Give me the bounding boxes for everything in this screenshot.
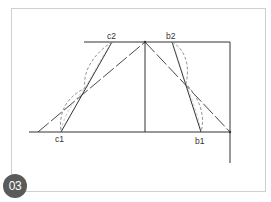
- label-c1: c1: [55, 134, 64, 144]
- figure-number-badge: 03: [3, 174, 27, 198]
- apex-point: [144, 41, 146, 43]
- right-bottom-point: [229, 131, 231, 133]
- label-b2: b2: [166, 31, 176, 41]
- label-c2: c2: [107, 31, 116, 41]
- b2-b1-line: [172, 42, 201, 132]
- c1-c2-line: [61, 42, 112, 132]
- pattern-diagram: c2 c1 b2 b1: [0, 0, 271, 202]
- label-b1: b1: [195, 136, 205, 146]
- left-dashed-diagonal: [38, 42, 145, 132]
